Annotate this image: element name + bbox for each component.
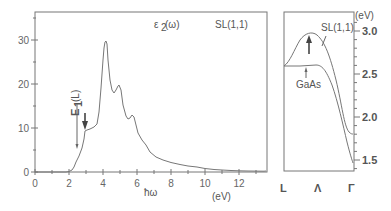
title-epsilon: ε	[154, 19, 159, 30]
main-y-tick-labels: 0 10 20 30	[18, 35, 30, 178]
band-tick-3.0: 3.0	[362, 25, 377, 37]
y-tick-30: 30	[18, 35, 30, 46]
x-axis-label: ħω	[144, 187, 158, 198]
y-tick-20: 20	[18, 79, 30, 90]
main-x-tick-labels: 0 2 4 6 8 10 12	[32, 178, 245, 189]
x-tick-4: 4	[100, 178, 106, 189]
band-tick-1.5: 1.5	[362, 154, 377, 166]
gaas-arrow-head	[305, 67, 308, 72]
band-plot-frame	[284, 12, 354, 171]
x-tick-0: 0	[32, 178, 38, 189]
main-title: ε 2 (ω)	[154, 19, 179, 33]
x-tick-6: 6	[134, 178, 140, 189]
sl-label: SL(1,1)	[215, 19, 248, 30]
x-tick-2: 2	[66, 178, 72, 189]
sl-bold-arrow-head	[306, 35, 312, 43]
x-tick-8: 8	[168, 178, 174, 189]
x-tick-12: 12	[233, 178, 245, 189]
figure: 0 10 20 30 0 2 4 6 8 10 12 ħω (eV) ε 2 (…	[0, 0, 391, 211]
bold-arrow-head	[82, 121, 88, 130]
band-gaas-label: GaAs	[296, 79, 321, 90]
e1-marker: E 1 (L)	[69, 90, 88, 149]
e1-label: E	[69, 109, 81, 116]
band-tick-2.5: 2.5	[362, 68, 377, 80]
x-axis-unit: (eV)	[212, 191, 231, 202]
y-tick-10: 10	[18, 123, 30, 134]
y-tick-0: 0	[23, 167, 29, 178]
epsilon2-curve	[35, 41, 266, 172]
x-tick-10: 10	[199, 178, 211, 189]
band-sl-label: SL(1,1)	[321, 22, 354, 33]
band-unit: (eV)	[355, 10, 374, 21]
band-y-axis	[354, 22, 360, 168]
kpoint-Lambda: Λ	[314, 182, 322, 194]
kpoint-Gamma: Γ	[348, 182, 355, 194]
thin-arrow-head	[76, 144, 79, 149]
kpoint-L: L	[280, 182, 287, 194]
title-arg: (ω)	[165, 19, 179, 30]
e1-arg: (L)	[70, 90, 81, 102]
band-tick-2.0: 2.0	[362, 111, 377, 123]
